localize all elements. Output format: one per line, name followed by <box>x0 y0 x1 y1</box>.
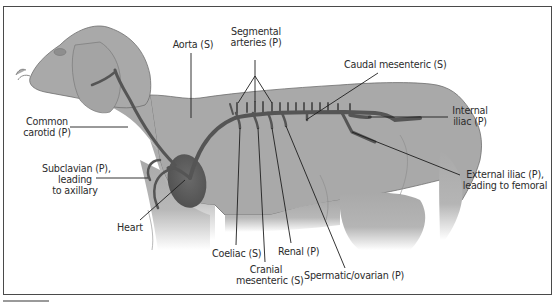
label-segmental-line1: Segmental <box>228 26 284 37</box>
label-renal: Renal (P) <box>278 246 319 257</box>
label-common-carotid-line2: carotid (P) <box>22 127 72 138</box>
label-internal-iliac-line2: iliac (P) <box>448 116 492 127</box>
label-subclavian-line2: leading <box>42 174 108 185</box>
label-cranial-mesenteric: Cranial mesenteric (S) <box>236 264 296 286</box>
label-cranial-mesenteric-line2: mesenteric (S) <box>236 275 296 286</box>
label-common-carotid: Common carotid (P) <box>22 116 72 138</box>
label-common-carotid-line1: Common <box>22 116 72 127</box>
label-segmental-line2: arteries (P) <box>228 37 284 48</box>
label-external-iliac-line2: leading to femoral <box>460 180 550 191</box>
label-external-iliac: External iliac (P), leading to femoral <box>460 169 550 191</box>
label-aorta: Aorta (S) <box>168 39 218 50</box>
label-cranial-mesenteric-line1: Cranial <box>236 264 296 275</box>
label-internal-iliac: Internal iliac (P) <box>448 105 492 127</box>
label-internal-iliac-line1: Internal <box>448 105 492 116</box>
label-spermatic-ovarian: Spermatic/ovarian (P) <box>304 270 404 281</box>
label-heart: Heart <box>117 222 143 233</box>
label-segmental-arteries: Segmental arteries (P) <box>228 26 284 48</box>
label-subclavian-line3: to axillary <box>42 185 108 196</box>
label-subclavian-line1: Subclavian (P), <box>42 163 108 174</box>
label-external-iliac-line1: External iliac (P), <box>460 169 550 180</box>
label-coeliac: Coeliac (S) <box>212 248 261 259</box>
label-subclavian: Subclavian (P), leading to axillary <box>42 163 108 196</box>
label-caudal-mesenteric: Caudal mesenteric (S) <box>344 59 447 70</box>
